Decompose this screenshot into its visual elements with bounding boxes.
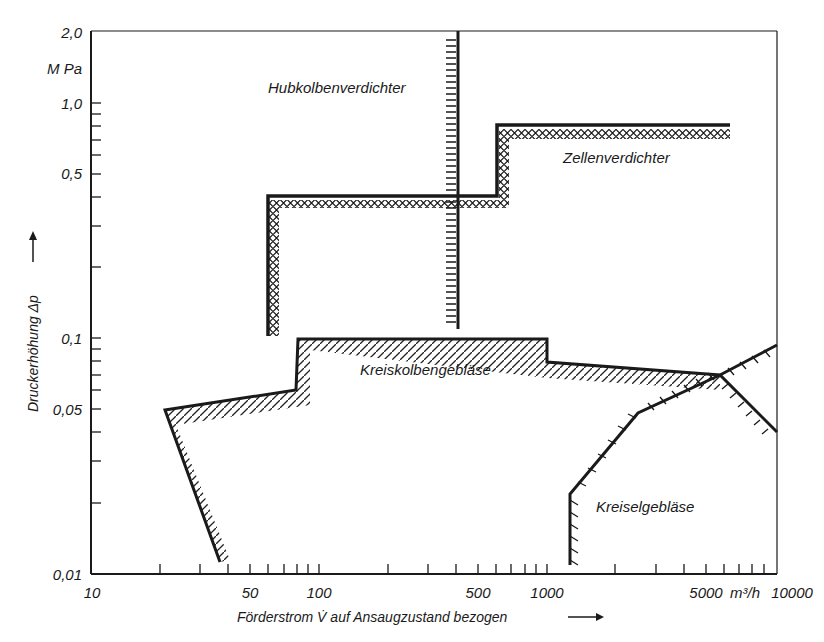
x-axis-ticks [160, 564, 764, 574]
y-tick-2: 2,0 [60, 24, 83, 41]
label-zellenverdichter: Zellenverdichter [562, 149, 671, 166]
y-tick-0-01: 0,01 [53, 566, 82, 583]
x-axis-arrow-icon [568, 613, 604, 621]
y-tick-0-05: 0,05 [53, 401, 83, 418]
x-tick-50: 50 [242, 584, 259, 601]
y-axis-arrow-icon [29, 231, 37, 262]
x-unit-label: m³/h [730, 584, 760, 601]
x-tick-10000: 10000 [771, 584, 813, 601]
label-kreiselgeblase: Kreiselgebläse [596, 498, 694, 515]
y-axis-title: Druckerhöhung Δp [25, 295, 41, 412]
x-tick-1000: 1000 [530, 584, 564, 601]
y-axis-ticks [91, 103, 101, 503]
x-tick-500: 500 [465, 584, 491, 601]
series-hubkolbenverdichter [446, 31, 458, 329]
chart-canvas: Hubkolbenverdichter Zellenverdichter Kre… [0, 0, 824, 642]
y-tick-0-5: 0,5 [61, 165, 83, 182]
x-tick-100: 100 [306, 584, 332, 601]
y-unit-label: M Pa [47, 60, 82, 77]
x-tick-5000: 5000 [689, 584, 723, 601]
y-tick-1: 1,0 [61, 95, 83, 112]
x-axis-title: Förderstrom V̇ auf Ansaugzustand bezogen [237, 609, 508, 625]
y-tick-0-1: 0,1 [61, 330, 82, 347]
x-tick-10: 10 [84, 584, 101, 601]
label-kreiskolbengeblase: Kreiskolbengebläse [360, 361, 491, 378]
label-hubkolbenverdichter: Hubkolbenverdichter [268, 79, 407, 96]
